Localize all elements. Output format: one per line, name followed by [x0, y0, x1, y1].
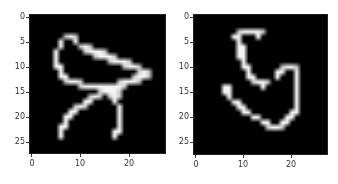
- xtick-mark: [291, 155, 292, 158]
- ytick-label: 10: [169, 63, 189, 71]
- xtick-mark: [195, 155, 196, 158]
- ytick-mark: [190, 67, 193, 68]
- xtick-mark: [129, 154, 130, 157]
- ytick-label: 25: [5, 138, 25, 146]
- ytick-label: 25: [169, 138, 189, 146]
- ytick-mark: [26, 67, 29, 68]
- xtick-mark: [80, 154, 81, 157]
- ytick-mark: [190, 17, 193, 18]
- ytick-label: 20: [5, 113, 25, 121]
- xtick-label: 0: [22, 160, 42, 168]
- ytick-mark: [26, 117, 29, 118]
- ytick-mark: [190, 142, 193, 143]
- ytick-mark: [26, 17, 29, 18]
- ytick-mark: [190, 42, 193, 43]
- digit-image-right: [193, 14, 328, 155]
- ytick-label: 0: [5, 13, 25, 21]
- xtick-mark: [243, 155, 244, 158]
- ytick-label: 5: [5, 38, 25, 46]
- ytick-mark: [26, 42, 29, 43]
- ytick-mark: [26, 142, 29, 143]
- image-panel-right: [193, 14, 328, 155]
- digit-image-left: [29, 14, 166, 154]
- xtick-label: 20: [281, 161, 301, 169]
- xtick-label: 0: [186, 161, 206, 169]
- ytick-label: 5: [169, 38, 189, 46]
- xtick-mark: [31, 154, 32, 157]
- ytick-label: 20: [169, 113, 189, 121]
- ytick-label: 10: [5, 63, 25, 71]
- xtick-label: 10: [70, 160, 90, 168]
- ytick-label: 15: [5, 88, 25, 96]
- ytick-mark: [26, 92, 29, 93]
- xtick-label: 10: [233, 161, 253, 169]
- ytick-label: 15: [169, 88, 189, 96]
- ytick-label: 0: [169, 13, 189, 21]
- xtick-label: 20: [119, 160, 139, 168]
- ytick-mark: [190, 92, 193, 93]
- image-panel-left: [29, 14, 166, 154]
- ytick-mark: [190, 117, 193, 118]
